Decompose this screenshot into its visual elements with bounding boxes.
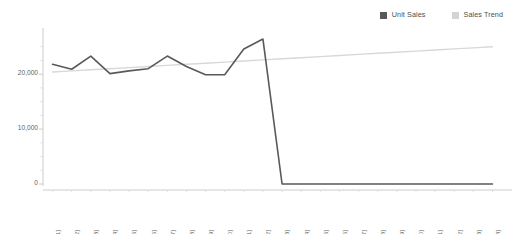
x-tick-label: 3 [3] [93,230,99,234]
x-tick-label: 9 [21] [437,230,443,234]
series-line-sales-trend [53,47,493,72]
x-tick-label: 2 [14] [304,230,310,234]
axis-layer [39,28,512,192]
x-tick-label: 5 [5] [131,230,137,234]
x-tick-label: 7 [19] [399,230,405,234]
y-tick-label: 0 [34,180,38,187]
x-tick-label: 10 [22] [457,230,463,234]
series-layer [53,39,493,184]
x-tick-label: 9 [9] [208,230,214,234]
series-line-unit-sales [53,39,493,184]
x-axis-labels: 1 [1]2 [2]3 [3]4 [4]5 [5]6 [6]7 [7]8 [8]… [0,192,515,234]
x-tick-label: 2 [2] [74,230,80,234]
x-tick-label: 7 [7] [170,230,176,234]
x-tick-label: 12 [12] [265,230,271,234]
x-tick-label: 1 [13] [284,230,290,234]
x-tick-label: 6 [6] [151,230,157,234]
x-tick-label: 6 [18] [380,230,386,234]
x-tick-label: 3 [15] [323,230,329,234]
x-tick-label: 11 [11] [246,230,252,234]
x-tick-label: 1 [1] [55,230,61,234]
x-tick-label: 8 [20] [418,230,424,234]
x-tick-label: 5 [17] [361,230,367,234]
x-tick-label: 4 [16] [342,230,348,234]
y-tick-label: 10,000 [18,125,38,132]
x-tick-label: 12 [24] [495,230,501,234]
line-chart: Unit Sales Sales Trend 20,00010,0000 1 [… [0,0,515,234]
x-tick-label: 11 [23] [476,230,482,234]
x-tick-label: 4 [4] [112,230,118,234]
x-tick-label: 10 [10] [227,230,233,234]
x-tick-label: 8 [8] [189,230,195,234]
y-tick-label: 20,000 [18,70,38,77]
